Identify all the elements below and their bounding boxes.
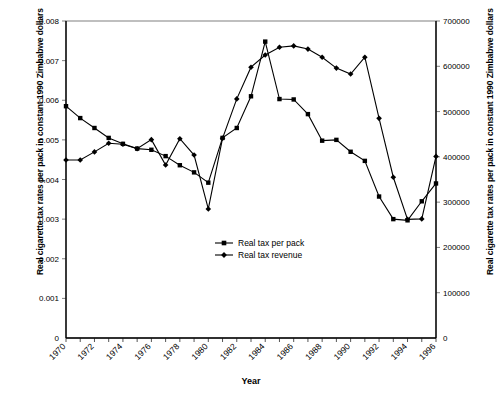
data-point-marker [334,138,338,142]
data-point-marker [163,154,167,158]
data-point-marker [348,150,352,154]
data-point-marker [433,154,439,160]
series-layer [63,39,439,222]
legend-box: Real tax per packReal tax revenue [213,236,331,262]
y-right-tick-label: 500000 [443,108,470,117]
data-point-marker [63,157,69,163]
data-point-marker [305,46,311,52]
x-tick-label: 1976 [132,341,153,362]
data-point-marker [291,97,295,101]
data-point-marker [163,162,169,168]
y-left-tick-label: 0.008 [39,17,60,26]
data-point-marker [291,43,297,49]
data-point-marker [249,94,253,98]
series-2 [63,43,439,222]
y-left-tick-label: 0.002 [39,255,60,264]
data-point-marker [419,216,425,222]
data-point-marker [206,206,212,212]
data-point-marker [149,148,153,152]
x-tick-label: 1990 [332,341,353,362]
data-point-marker [178,163,182,167]
data-point-marker [377,194,381,198]
x-tick-label: 1988 [303,341,324,362]
data-point-marker [106,136,110,140]
data-point-marker [420,199,424,203]
data-point-marker [434,181,438,185]
legend-label: Real tax revenue [238,250,303,260]
x-tick-label: 1996 [417,341,438,362]
data-point-marker [277,44,283,50]
y-left-tick-label: 0.005 [39,136,60,145]
y-right-tick-label: 400000 [443,153,470,162]
x-tick-label: 1982 [218,341,239,362]
data-point-marker [222,241,227,246]
data-point-marker [320,138,324,142]
data-point-marker [234,96,240,102]
y-left-tick-label: 0.001 [39,294,60,303]
x-tick-label: 1970 [47,341,68,362]
y-left-tick-label: 0.004 [39,176,60,185]
y-right-tick-label: 200000 [443,243,470,252]
data-point-marker [306,112,310,116]
y-left-tick-label: 0.006 [39,96,60,105]
data-point-marker [206,180,210,184]
data-point-marker [235,126,239,130]
data-point-marker [192,170,196,174]
data-point-marker [64,104,68,108]
data-point-marker [277,97,281,101]
data-point-marker [391,174,397,180]
data-point-marker [391,217,395,221]
data-point-marker [263,39,267,43]
data-point-marker [376,116,382,122]
y-right-tick-label: 700000 [443,17,470,26]
y-left-tick-label: 0.003 [39,215,60,224]
y-axis-right-ticks: 0100000200000300000400000500000600000700… [436,17,470,343]
y-axis-left-ticks: 00.0010.0020.0030.0040.0050.0060.0070.00… [39,17,66,343]
data-point-marker [149,137,155,143]
x-tick-label: 1992 [360,341,381,362]
y-right-tick-label: 300000 [443,198,470,207]
legend-label: Real tax per pack [238,238,305,248]
y-right-tick-label: 600000 [443,62,470,71]
chart-canvas: 00.0010.0020.0030.0040.0050.0060.0070.00… [0,0,502,398]
x-axis-ticks: 1970197219741976197819801982198419861988… [47,338,438,362]
data-point-marker [92,126,96,130]
data-point-marker [363,159,367,163]
x-tick-label: 1980 [189,341,210,362]
data-point-marker [106,140,112,146]
y-left-tick-label: 0.007 [39,57,60,66]
y-right-tick-label: 100000 [443,289,470,298]
x-tick-label: 1974 [104,341,125,362]
data-point-marker [78,116,82,120]
y-right-tick-label: 0 [443,334,448,343]
x-tick-label: 1978 [161,341,182,362]
x-tick-label: 1972 [75,341,96,362]
x-tick-label: 1986 [275,341,296,362]
chart-figure: Real cigarette tax rates per pack in con… [0,0,502,398]
x-tick-label: 1994 [389,341,410,362]
x-tick-label: 1984 [246,341,267,362]
data-point-marker [92,149,98,155]
data-point-marker [77,157,83,163]
